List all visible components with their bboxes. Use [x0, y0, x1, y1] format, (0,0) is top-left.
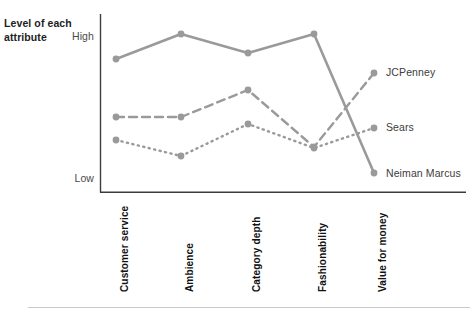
- series-markers-neiman-marcus: [113, 31, 378, 177]
- series-line-neiman-marcus: [116, 34, 374, 173]
- x-tick-fashionability: Fashionability: [317, 223, 328, 292]
- x-tick-category-depth: Category depth: [251, 217, 262, 292]
- series-line-sears: [116, 124, 374, 156]
- series-markers-jcpenney: [113, 70, 378, 151]
- x-tick-value-for-money: Value for money: [377, 213, 388, 293]
- plot-area: [0, 0, 470, 317]
- x-tick-ambience: Ambience: [184, 243, 195, 292]
- footer-divider: [28, 307, 470, 308]
- chart-container: Level of each attribute High Low: [0, 0, 470, 317]
- x-tick-customer-service: Customer service: [119, 206, 130, 292]
- series-label-sears: Sears: [386, 121, 414, 133]
- series-label-neiman-marcus: Neiman Marcus: [386, 167, 461, 179]
- series-label-jcpenney: JCPenney: [386, 66, 435, 78]
